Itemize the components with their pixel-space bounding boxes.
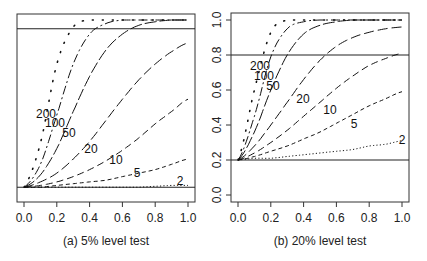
y-tick-label: 0.2 [210, 151, 224, 168]
curve-label-n20: 20 [84, 142, 98, 156]
x-tick-label: 0.6 [114, 211, 131, 225]
curve-label-n10: 10 [323, 103, 337, 117]
power-curve-n200 [24, 20, 188, 187]
power-curve-n200 [238, 20, 402, 160]
power-curve-n20 [238, 27, 402, 160]
curve-label-n10: 10 [109, 153, 123, 167]
y-tick-label: 1.0 [210, 11, 224, 28]
curve-label-n200: 200 [250, 59, 270, 73]
curve-label-n5: 5 [351, 117, 358, 131]
x-tick-label: 0.4 [81, 211, 98, 225]
x-tick-label: 0.2 [262, 211, 279, 225]
y-tick-label: 0.0 [210, 186, 224, 203]
curve-label-n20: 20 [296, 92, 310, 106]
y-tick-label: 0.8 [210, 46, 224, 63]
panel-5pct-level-test: 0.00.20.40.60.81.025102050100200 [16, 14, 197, 225]
curve-label-n2: 2 [399, 133, 406, 147]
power-curve-n2 [238, 141, 402, 160]
caption-right: (b) 20% level test [274, 234, 367, 248]
panel-20pct-level-test: 0.00.20.40.60.81.00.00.20.40.60.81.02510… [210, 11, 411, 225]
power-curve-n50 [24, 20, 188, 187]
power-curve-n50 [238, 20, 402, 160]
y-tick-label: 0.6 [210, 81, 224, 98]
x-tick-label: 0.8 [147, 211, 164, 225]
x-tick-label: 0.2 [48, 211, 65, 225]
power-curve-n100 [24, 20, 188, 187]
x-tick-label: 0.4 [295, 211, 312, 225]
power-curve-n100 [238, 20, 402, 160]
x-tick-label: 0.8 [361, 211, 378, 225]
caption-left: (a) 5% level test [63, 234, 150, 248]
x-tick-label: 0.0 [230, 211, 247, 225]
x-tick-label: 0.6 [328, 211, 345, 225]
y-tick-label: 0.4 [210, 116, 224, 133]
x-tick-label: 1.0 [180, 211, 197, 225]
x-tick-label: 1.0 [394, 211, 411, 225]
curve-label-n2: 2 [177, 174, 184, 188]
curve-label-n200: 200 [36, 107, 56, 121]
x-tick-label: 0.0 [16, 211, 33, 225]
plot-frame [231, 13, 409, 202]
curve-label-n5: 5 [134, 166, 141, 180]
power-curves-figure: 0.00.20.40.60.81.025102050100200 0.00.20… [0, 0, 427, 261]
